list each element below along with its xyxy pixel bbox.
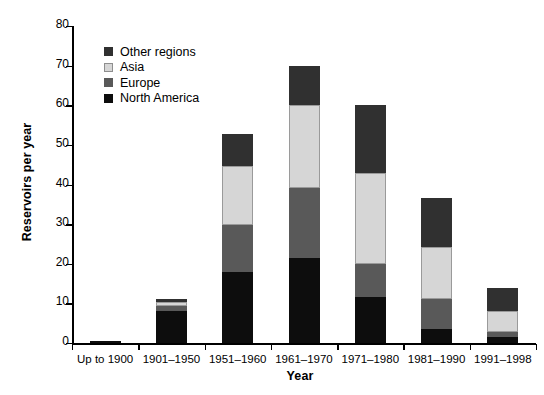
bar-segment[interactable] <box>355 264 386 297</box>
bar-stack[interactable] <box>487 288 518 343</box>
bar-stack[interactable] <box>289 66 320 343</box>
bar-segment[interactable] <box>222 166 253 225</box>
bar-segment[interactable] <box>222 272 253 343</box>
y-tick-label: 30 <box>56 216 69 228</box>
x-tick-label: 1901–1950 <box>138 354 204 366</box>
legend-item[interactable]: Other regions <box>104 44 199 60</box>
bar-segment[interactable] <box>222 134 253 166</box>
bar-segment[interactable] <box>289 66 320 106</box>
bar-segment[interactable] <box>487 311 518 331</box>
y-tick-label: 50 <box>56 137 69 149</box>
x-tick-label: 1971–1980 <box>337 354 403 366</box>
legend-item[interactable]: North America <box>104 91 199 107</box>
y-tick-label: 40 <box>56 177 69 189</box>
bar-stack[interactable] <box>421 198 452 343</box>
x-tick-mark <box>205 344 206 350</box>
x-tick-mark <box>470 344 471 350</box>
x-tick-label: 1981–1990 <box>403 354 469 366</box>
y-tick-label: 0 <box>62 335 69 347</box>
x-tick-mark <box>271 344 272 350</box>
bar-stack[interactable] <box>156 299 187 343</box>
legend-swatch-icon <box>104 47 113 56</box>
y-tick-label: 60 <box>56 97 69 109</box>
bar-segment[interactable] <box>421 299 452 328</box>
bar-segment[interactable] <box>289 105 320 188</box>
bar-segment[interactable] <box>355 297 386 343</box>
bar-segment[interactable] <box>156 302 187 306</box>
bar-segment[interactable] <box>90 341 121 343</box>
bar-segment[interactable] <box>156 306 187 311</box>
x-axis-title: Year <box>60 369 540 383</box>
legend-label: Other regions <box>120 46 196 59</box>
y-tick-label: 20 <box>56 256 69 268</box>
y-tick-label: 10 <box>56 295 69 307</box>
legend-label: Europe <box>120 77 160 90</box>
x-tick-label: 1961–1970 <box>271 354 337 366</box>
bar-segment[interactable] <box>156 299 187 302</box>
x-tick-mark <box>138 344 139 350</box>
y-axis-title: Reservoirs per year <box>20 62 34 302</box>
x-tick-mark <box>403 344 404 350</box>
y-axis-line <box>72 26 74 344</box>
legend-swatch-icon <box>104 63 113 72</box>
bar-segment[interactable] <box>421 198 452 247</box>
bar-segment[interactable] <box>421 329 452 343</box>
bar-stack[interactable] <box>355 105 386 343</box>
chart-legend: Other regionsAsiaEuropeNorth America <box>104 44 199 106</box>
bar-segment[interactable] <box>487 332 518 338</box>
bar-stack[interactable] <box>222 134 253 343</box>
stacked-bar-chart: Reservoirs per year 01020304050607080 Up… <box>0 0 544 395</box>
legend-item[interactable]: Europe <box>104 75 199 91</box>
bar-segment[interactable] <box>289 188 320 257</box>
y-tick-label: 80 <box>56 18 69 30</box>
y-tick-label: 70 <box>56 58 69 70</box>
bar-segment[interactable] <box>222 225 253 272</box>
x-tick-label: Up to 1900 <box>72 354 138 366</box>
bar-segment[interactable] <box>156 311 187 343</box>
x-tick-mark <box>536 344 537 350</box>
x-axis-line <box>72 343 536 345</box>
legend-item[interactable]: Asia <box>104 60 199 76</box>
bar-segment[interactable] <box>487 288 518 312</box>
bar-segment[interactable] <box>355 173 386 264</box>
x-tick-mark <box>72 344 73 350</box>
legend-label: Asia <box>120 61 144 74</box>
bar-segment[interactable] <box>487 337 518 343</box>
bar-segment[interactable] <box>289 258 320 343</box>
x-tick-mark <box>337 344 338 350</box>
legend-swatch-icon <box>104 78 113 87</box>
bar-segment[interactable] <box>355 105 386 172</box>
legend-label: North America <box>120 92 199 105</box>
legend-swatch-icon <box>104 94 113 103</box>
x-tick-label: 1951–1960 <box>205 354 271 366</box>
bar-stack[interactable] <box>90 341 121 343</box>
bar-segment[interactable] <box>421 247 452 300</box>
x-tick-label: 1991–1998 <box>470 354 536 366</box>
